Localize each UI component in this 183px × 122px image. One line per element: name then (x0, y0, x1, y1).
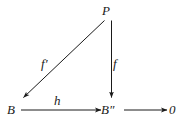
node-B-double-prime-label: B″ (101, 103, 114, 116)
node-P-label: P (102, 4, 110, 17)
double-prime-mark: ″ (109, 102, 114, 117)
node-B-label: B (7, 103, 15, 116)
node-zero-label: 0 (169, 103, 176, 116)
arrow-f-prime-line (24, 21, 105, 98)
arrow-f-label: f (113, 57, 117, 70)
commutative-diagram: P B B″ 0 f′ f h (0, 0, 183, 122)
arrow-f-prime-label: f′ (41, 57, 47, 70)
arrow-h-label: h (54, 94, 61, 107)
node-B-double-prime-base: B (101, 102, 109, 117)
diagram-lines-layer (0, 0, 183, 122)
prime-mark: ′ (45, 56, 48, 71)
